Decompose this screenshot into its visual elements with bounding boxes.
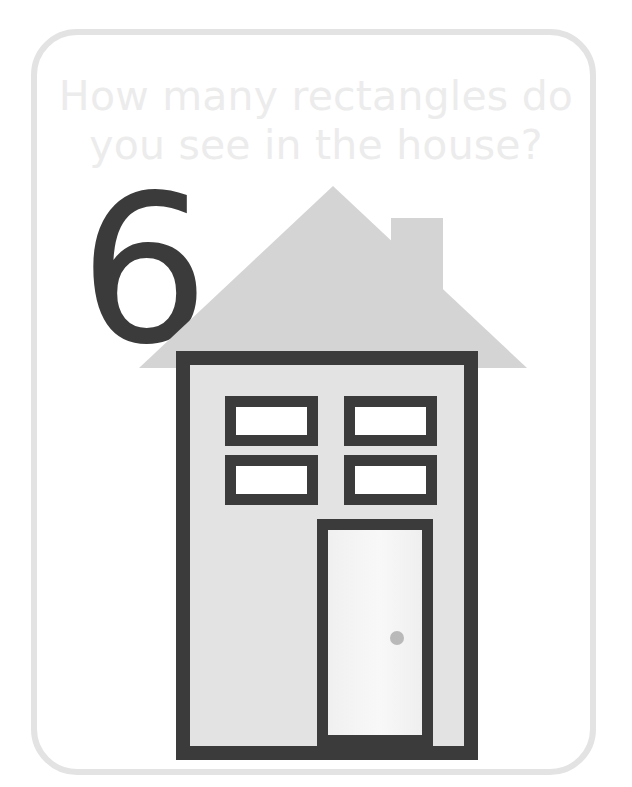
answer-number: 6 bbox=[79, 168, 189, 373]
worksheet-card: How many rectangles do you see in the ho… bbox=[0, 0, 632, 787]
